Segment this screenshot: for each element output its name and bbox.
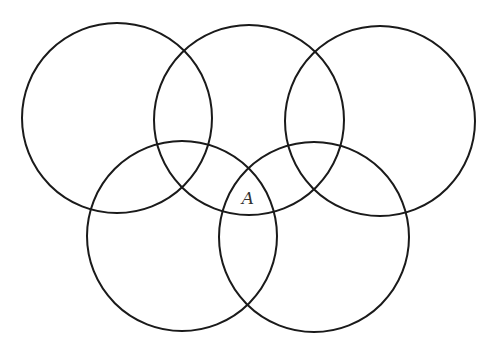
olympic-rings-diagram: A [0,0,495,360]
circle-top-middle [154,25,344,215]
region-label-a: A [240,188,254,208]
circle-top-right [285,26,475,216]
circle-bottom-right [219,142,409,332]
